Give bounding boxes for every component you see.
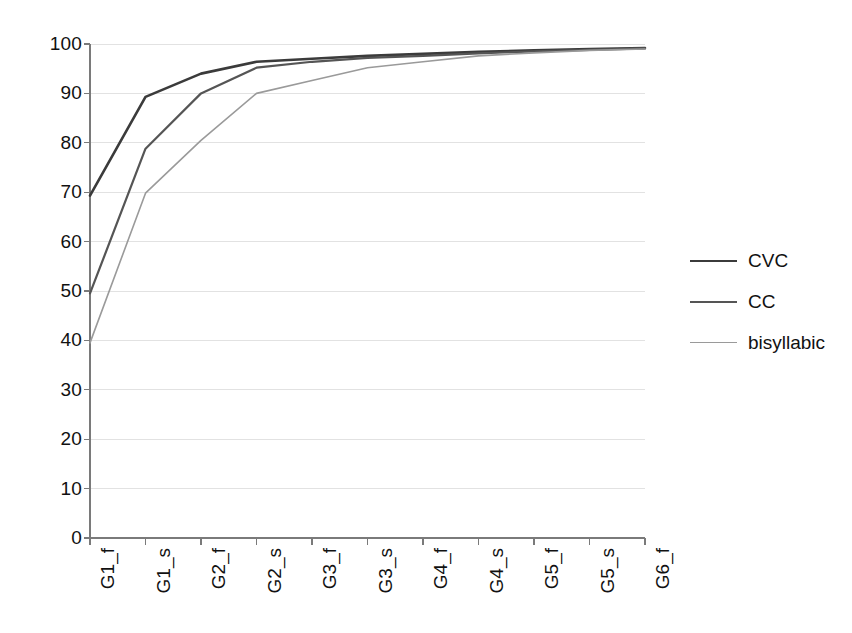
legend-label-cc: CC <box>748 292 775 311</box>
x-tick-label-G5_f: G5_f <box>542 548 561 633</box>
legend-swatch-bisyllabic <box>690 342 737 343</box>
x-tick-label-G1_s: G1_s <box>154 548 173 633</box>
x-tick-label-G3_s: G3_s <box>376 548 395 633</box>
x-tick-label-G4_f: G4_f <box>431 548 450 633</box>
legend-label-bisyllabic: bisyllabic <box>748 333 825 352</box>
legend-swatch-cvc <box>690 260 737 262</box>
x-tick-label-G2_f: G2_f <box>209 548 228 633</box>
legend-item-cvc[interactable]: CVC <box>690 240 848 281</box>
x-tick-label-G4_s: G4_s <box>487 548 506 633</box>
legend-label-cvc: CVC <box>748 251 788 270</box>
x-tick-label-G3_f: G3_f <box>320 548 339 633</box>
x-tick-label-G1_f: G1_f <box>98 548 117 633</box>
x-tick-label-G5_s: G5_s <box>598 548 617 633</box>
chart-root: 1009080706050403020100 G1_fG1_sG2_fG2_sG… <box>0 0 852 633</box>
x-tick-label-G2_s: G2_s <box>265 548 284 633</box>
x-tick-label-G6_f: G6_f <box>653 548 672 633</box>
legend-swatch-cc <box>690 301 737 303</box>
legend-item-bisyllabic[interactable]: bisyllabic <box>690 322 848 363</box>
chart-legend: CVCCCbisyllabic <box>690 240 848 363</box>
legend-item-cc[interactable]: CC <box>690 281 848 322</box>
